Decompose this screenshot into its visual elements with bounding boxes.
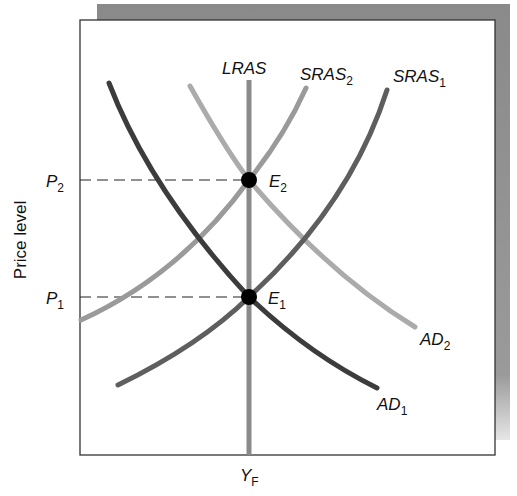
e1-point xyxy=(241,289,257,305)
e2-point xyxy=(241,172,257,188)
y-axis-label: Price level xyxy=(11,201,30,279)
lras-label: LRAS xyxy=(222,59,267,78)
p1-label: P1 xyxy=(46,289,64,312)
yf-label: YF xyxy=(240,466,259,489)
as-ad-diagram: Price level P2 P1 YF LRAS SRAS2 SRAS1 AD… xyxy=(0,0,517,496)
p2-label: P2 xyxy=(46,172,64,195)
